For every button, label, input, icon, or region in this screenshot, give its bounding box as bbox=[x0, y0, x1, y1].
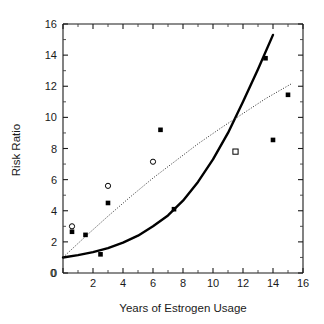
y-axis-tick-labels: 0246810121416 bbox=[45, 18, 57, 279]
x-axis-ticks-top bbox=[63, 24, 303, 29]
data-point-filled-square bbox=[98, 252, 103, 257]
data-point-filled-square bbox=[263, 56, 268, 61]
y-tick-label: 16 bbox=[45, 18, 57, 30]
data-point-filled-square bbox=[106, 201, 111, 206]
y-tick-label: 10 bbox=[45, 111, 57, 123]
data-point-filled-square bbox=[172, 207, 177, 212]
data-point-open-circle bbox=[105, 183, 110, 188]
solid-fit-curve bbox=[63, 35, 273, 258]
x-tick-label: 8 bbox=[180, 277, 186, 289]
data-point-filled-square bbox=[83, 233, 88, 238]
dotted-fit-line bbox=[63, 83, 293, 257]
y-axis-ticks-right bbox=[298, 24, 303, 273]
x-axis-tick-labels: 0246810121416 bbox=[50, 267, 309, 289]
y-tick-label: 14 bbox=[45, 49, 57, 61]
data-point-filled-square bbox=[70, 229, 75, 234]
x-tick-label: 14 bbox=[267, 277, 279, 289]
x-tick-label: 12 bbox=[237, 277, 249, 289]
data-point-filled-square bbox=[158, 128, 163, 133]
data-point-open-circle bbox=[69, 224, 74, 229]
axis-frame bbox=[63, 24, 303, 273]
x-axis-title: Years of Estrogen Usage bbox=[119, 302, 246, 314]
y-tick-label: 4 bbox=[51, 205, 57, 217]
data-points bbox=[69, 56, 290, 257]
x-tick-label: 0 bbox=[50, 267, 56, 279]
data-point-open-circle bbox=[150, 159, 155, 164]
data-point-open-square bbox=[233, 149, 238, 154]
y-tick-label: 8 bbox=[51, 143, 57, 155]
x-tick-label: 16 bbox=[297, 277, 309, 289]
data-point-filled-square bbox=[271, 138, 276, 143]
y-axis-title: Risk Ratio bbox=[10, 124, 22, 176]
x-tick-label: 6 bbox=[150, 277, 156, 289]
x-tick-label: 4 bbox=[120, 277, 126, 289]
y-tick-label: 12 bbox=[45, 80, 57, 92]
y-tick-label: 2 bbox=[51, 236, 57, 248]
scatter-plot: 0246810121416 0246810121416 Years of Est… bbox=[0, 0, 324, 324]
x-axis-ticks bbox=[63, 268, 303, 273]
chart-figure: 0246810121416 0246810121416 Years of Est… bbox=[0, 0, 324, 324]
x-tick-label: 2 bbox=[90, 277, 96, 289]
y-tick-label: 6 bbox=[51, 174, 57, 186]
x-tick-label: 10 bbox=[207, 277, 219, 289]
fitted-curves bbox=[63, 35, 293, 258]
y-axis-ticks bbox=[63, 24, 68, 273]
data-point-filled-square bbox=[286, 93, 291, 98]
